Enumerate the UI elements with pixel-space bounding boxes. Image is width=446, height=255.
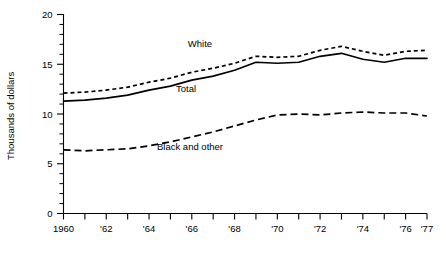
x-tick-label: '64	[143, 223, 155, 234]
chart-container: 05101520 1960'62'64'66'68'70'72'74'76'77…	[0, 0, 446, 255]
y-tick-label: 15	[42, 59, 53, 70]
y-tick-label: 20	[42, 9, 53, 20]
x-tick-label: '72	[314, 223, 326, 234]
x-axis-ticks	[64, 214, 428, 220]
x-tick-label: '68	[228, 223, 240, 234]
series-annotations: WhiteTotalBlack and other	[157, 38, 223, 152]
x-tick-label: '74	[357, 223, 369, 234]
x-tick-label: '70	[271, 223, 283, 234]
series-line-white	[64, 46, 428, 93]
series-label-black-and-other: Black and other	[157, 141, 223, 152]
series-label-total: Total	[176, 83, 196, 94]
y-axis-ticks	[57, 15, 64, 214]
series-label-white: White	[188, 38, 212, 49]
x-tick-label: '62	[100, 223, 112, 234]
y-tick-label: 0	[47, 208, 52, 219]
axes	[64, 14, 428, 214]
x-tick-label: '76	[399, 223, 411, 234]
data-series-group	[64, 46, 428, 150]
x-tick-label: 1960	[53, 223, 74, 234]
y-tick-label: 5	[47, 158, 52, 169]
x-axis-tick-labels: 1960'62'64'66'68'70'72'74'76'77	[53, 223, 433, 234]
y-axis-title: Thousands of dollars	[5, 72, 16, 160]
y-axis-tick-labels: 05101520	[42, 9, 53, 219]
income-line-chart: 05101520 1960'62'64'66'68'70'72'74'76'77…	[0, 0, 446, 255]
x-tick-label: '66	[186, 223, 198, 234]
y-tick-label: 10	[42, 109, 53, 120]
x-tick-label: '77	[421, 223, 433, 234]
series-line-black-and-other	[64, 112, 428, 151]
